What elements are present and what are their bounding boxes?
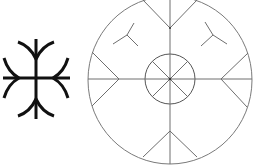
figure-canvas: Two symbols: a bold runic cross with cur…	[0, 0, 253, 167]
center-dot	[169, 78, 172, 81]
left-tripod-mark	[113, 23, 138, 46]
runic-cross-icon	[3, 39, 70, 119]
right-chevron	[221, 53, 248, 107]
right-tripod-mark	[201, 22, 227, 46]
circle-emblem-icon	[88, 0, 252, 164]
diagram-svg	[0, 0, 253, 167]
top-v-dot	[169, 27, 171, 29]
